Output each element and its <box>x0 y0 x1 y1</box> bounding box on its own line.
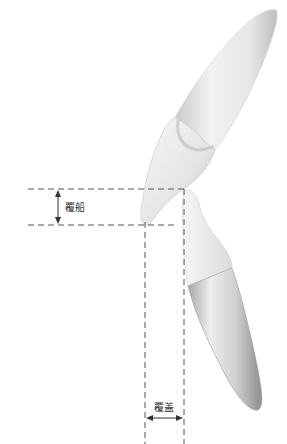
overbite-arrow-down-icon <box>55 217 61 224</box>
overjet-arrow-left-icon <box>146 415 153 421</box>
overbite-arrow-up-icon <box>55 190 61 197</box>
incisor-relationship-diagram <box>0 0 287 444</box>
overjet-label: 覆盖 <box>154 399 174 414</box>
overbite-label: 覆船 <box>65 199 85 214</box>
lower-incisor-root <box>188 268 262 410</box>
overjet-arrow-right-icon <box>176 415 183 421</box>
